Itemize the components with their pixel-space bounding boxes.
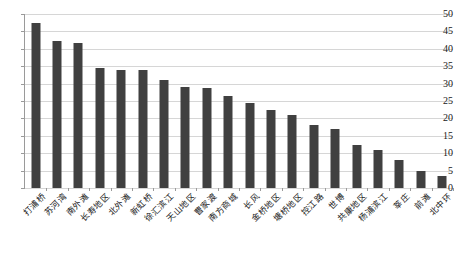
x-axis-label: 打浦桥 [22, 192, 47, 217]
y-tick-mark [21, 153, 24, 154]
x-tick-mark [389, 188, 390, 191]
x-tick-mark [346, 188, 347, 191]
x-tick-mark [260, 188, 261, 191]
y-tick-mark [21, 49, 24, 50]
x-tick-mark [89, 188, 90, 191]
bar[interactable] [331, 129, 340, 188]
x-tick-mark [175, 188, 176, 191]
bar-slot [68, 14, 89, 188]
x-tick-mark [432, 188, 433, 191]
x-axis-label: 北中环 [428, 192, 453, 217]
x-tick-mark [410, 188, 411, 191]
x-axis-label: 北外滩 [107, 192, 132, 217]
bars-series [25, 14, 453, 188]
bar[interactable] [31, 23, 40, 188]
bar-slot [46, 14, 67, 188]
bar-slot [153, 14, 174, 188]
bar-slot [432, 14, 453, 188]
bar-slot [367, 14, 388, 188]
x-tick-mark [325, 188, 326, 191]
y-tick-mark [21, 31, 24, 32]
x-tick-mark [367, 188, 368, 191]
bar[interactable] [374, 150, 383, 188]
x-axis-label: 苏河湾 [43, 192, 68, 217]
y-tick-mark [21, 101, 24, 102]
x-axis-label: 控江路 [300, 192, 325, 217]
bar-slot [282, 14, 303, 188]
x-tick-mark [111, 188, 112, 191]
bar-slot [389, 14, 410, 188]
x-tick-mark [239, 188, 240, 191]
plot-area: 05101520253035404550 打浦桥苏河湾南外滩长寿地区北外滩新虹桥… [0, 0, 456, 260]
y-axis [0, 0, 24, 260]
bar[interactable] [74, 43, 83, 188]
bar[interactable] [267, 110, 276, 188]
bar-slot [132, 14, 153, 188]
bar[interactable] [224, 96, 233, 188]
bar[interactable] [352, 145, 361, 189]
bar[interactable] [202, 88, 211, 188]
x-tick-mark [218, 188, 219, 191]
bar[interactable] [95, 68, 104, 188]
x-tick-mark [303, 188, 304, 191]
x-tick-mark [46, 188, 47, 191]
bar-slot [239, 14, 260, 188]
bar-chart: 05101520253035404550 打浦桥苏河湾南外滩长寿地区北外滩新虹桥… [0, 0, 456, 260]
bar[interactable] [395, 160, 404, 188]
bar-slot [410, 14, 431, 188]
bar-slot [260, 14, 281, 188]
bar-slot [325, 14, 346, 188]
bar-slot [196, 14, 217, 188]
bar-slot [89, 14, 110, 188]
bar-slot [303, 14, 324, 188]
bar[interactable] [416, 171, 425, 188]
bar[interactable] [245, 103, 254, 188]
bar[interactable] [160, 80, 169, 188]
bar[interactable] [138, 70, 147, 188]
y-tick-mark [21, 188, 24, 189]
y-tick-mark [21, 118, 24, 119]
y-tick-mark [21, 14, 24, 15]
bar[interactable] [438, 176, 447, 188]
bar[interactable] [181, 87, 190, 188]
x-tick-mark [196, 188, 197, 191]
bar[interactable] [309, 125, 318, 188]
y-tick-mark [21, 66, 24, 67]
bar[interactable] [288, 115, 297, 188]
x-axis-category-labels: 打浦桥苏河湾南外滩长寿地区北外滩新虹桥徐汇滨江天山地区曹家渡南方商城长风金桥地区… [25, 192, 453, 260]
y-tick-mark [21, 84, 24, 85]
bar-slot [218, 14, 239, 188]
x-axis-label: 莘庄 [392, 192, 411, 211]
x-tick-mark [282, 188, 283, 191]
y-tick-mark [21, 136, 24, 137]
x-tick-mark [453, 188, 454, 191]
bar-slot [175, 14, 196, 188]
bar[interactable] [53, 41, 62, 188]
y-tick-mark [21, 171, 24, 172]
bar-slot [25, 14, 46, 188]
x-tick-mark [153, 188, 154, 191]
x-tick-mark [132, 188, 133, 191]
bar-slot [346, 14, 367, 188]
x-tick-mark [68, 188, 69, 191]
bar[interactable] [117, 70, 126, 188]
bar-slot [111, 14, 132, 188]
